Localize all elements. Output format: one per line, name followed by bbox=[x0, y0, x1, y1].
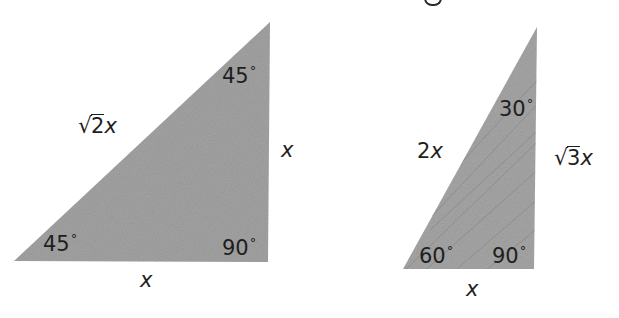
vertical-leg-label-root3x: √3x bbox=[554, 146, 593, 169]
triangle-45-45-90 bbox=[14, 22, 270, 262]
angle-45-bottom-left: 45° bbox=[43, 232, 77, 255]
special-right-triangles-diagram: 45° 45° 90° √2x x x 30° 60° 90° 2x √3x x bbox=[0, 0, 619, 318]
angle-90-left-triangle: 90° bbox=[222, 236, 256, 259]
angle-45-top: 45° bbox=[222, 64, 256, 87]
horizontal-leg-label-x-right: x bbox=[466, 279, 478, 300]
angle-30-top: 30° bbox=[499, 97, 533, 120]
hypotenuse-label-2x: 2x bbox=[417, 141, 443, 162]
angle-60-bottom-left: 60° bbox=[419, 244, 453, 267]
vertical-leg-label-x: x bbox=[281, 140, 293, 161]
horizontal-leg-label-x: x bbox=[140, 270, 152, 291]
hypotenuse-label-root2x: √2x bbox=[78, 114, 117, 137]
triangles-canvas bbox=[0, 0, 619, 318]
angle-90-right-triangle: 90° bbox=[492, 244, 526, 267]
